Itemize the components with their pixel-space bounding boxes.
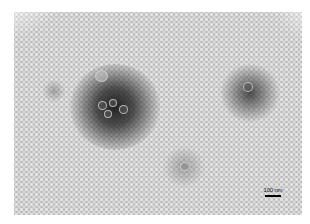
micrograph-image: [14, 12, 302, 215]
round-particle: [98, 101, 107, 110]
round-particle: [243, 82, 253, 92]
scale-bar-line: [265, 195, 281, 197]
dark-stained-region-right: [220, 64, 280, 122]
scale-bar-label: 100 nm: [258, 187, 288, 194]
dark-stained-region-main: [70, 64, 160, 150]
round-particle: [180, 162, 190, 171]
scale-bar: 100 nm: [258, 187, 288, 197]
faint-particle-region: [42, 80, 66, 102]
corner-highlight: [14, 12, 64, 42]
vesicle-particle: [95, 70, 108, 82]
corner-highlight: [272, 12, 302, 42]
round-particle: [119, 105, 128, 114]
round-particle: [109, 99, 117, 107]
round-particle: [104, 110, 112, 118]
